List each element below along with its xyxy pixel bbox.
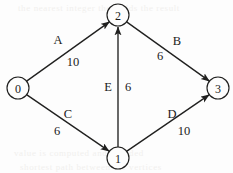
node-2[interactable]: 2 bbox=[107, 4, 129, 26]
edge-e-weight-label: 6 bbox=[125, 80, 131, 94]
edge-a-name-label: A bbox=[53, 33, 62, 47]
edge-d-name-label: D bbox=[167, 107, 176, 121]
node-0-label: 0 bbox=[15, 82, 21, 96]
graph-canvas: A 10 B 6 C 6 D 10 E 6 0 bbox=[0, 0, 233, 173]
graph-diagram: the nearest integer then adds the result… bbox=[0, 0, 233, 173]
node-3[interactable]: 3 bbox=[207, 77, 229, 99]
edge-b-name-label: B bbox=[173, 34, 181, 48]
edge-c-0-to-1: C 6 bbox=[27, 95, 109, 151]
edge-c-weight-label: 6 bbox=[54, 124, 60, 138]
edge-d-line bbox=[127, 95, 209, 151]
node-1-label: 1 bbox=[115, 152, 121, 166]
edge-e-1-to-2: E 6 bbox=[104, 27, 131, 147]
edge-a-weight-label: 10 bbox=[67, 55, 80, 69]
edge-b-2-to-3: B 6 bbox=[127, 22, 210, 81]
edge-b-line bbox=[127, 22, 210, 81]
edge-b-weight-label: 6 bbox=[157, 49, 163, 63]
edge-d-weight-label: 10 bbox=[178, 124, 191, 138]
edge-e-name-label: E bbox=[104, 80, 112, 94]
node-0[interactable]: 0 bbox=[7, 77, 29, 99]
edge-c-name-label: C bbox=[64, 107, 72, 121]
node-3-label: 3 bbox=[215, 82, 221, 96]
edge-c-line bbox=[27, 95, 109, 151]
edge-a-line bbox=[27, 22, 110, 81]
node-2-label: 2 bbox=[115, 9, 121, 23]
edge-d-1-to-3: D 10 bbox=[127, 95, 209, 151]
edge-a-0-to-2: A 10 bbox=[27, 22, 110, 81]
node-1[interactable]: 1 bbox=[107, 147, 129, 169]
